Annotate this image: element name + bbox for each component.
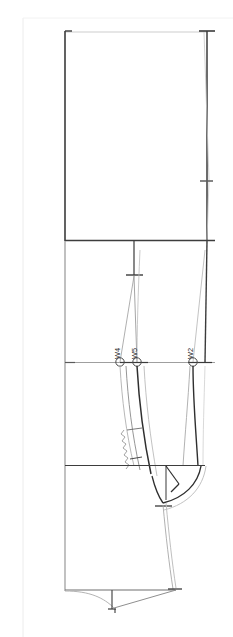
inseam-curve-d [144,366,157,476]
crotch-arc-dark [163,466,201,503]
front-fork-curve-upper [137,250,140,362]
right-outer-faint [203,366,205,466]
marker-w2[interactable]: W2 [186,348,197,366]
seam-cross-tick-upper [127,428,142,430]
right-leg-edge-hem-dark [163,505,173,589]
inseam-construction-upper [193,250,205,362]
crotch-curve-detail [152,466,206,510]
marker-w2-label: W2 [186,348,195,359]
right-outseam-dark [193,366,198,466]
marker-w4-label: W4 [113,348,122,359]
hem-construction [65,589,182,613]
pattern-drawing-canvas: W4 W5 W2 [0,0,233,637]
pattern-vector-drawing: W4 W5 W2 [0,0,233,637]
hem-grade-line [114,590,176,608]
measurement-markers[interactable]: W4 W5 W2 [113,348,197,366]
crotch-notch-branch-2 [171,484,179,492]
upper-block [65,31,215,241]
right-side-seam-mid [205,241,207,363]
crotch-inner-arc [152,476,163,503]
marker-w4[interactable]: W4 [113,348,124,366]
lower-block [65,363,205,476]
mid-block [65,241,207,363]
marker-w5[interactable]: W5 [130,348,141,366]
bottom-block [65,466,176,591]
page-border [23,18,233,637]
marker-w5-label: W5 [130,348,139,359]
right-outseam-light [183,366,190,466]
crotch-notch-branch [166,466,179,484]
hem-curve [65,591,114,608]
